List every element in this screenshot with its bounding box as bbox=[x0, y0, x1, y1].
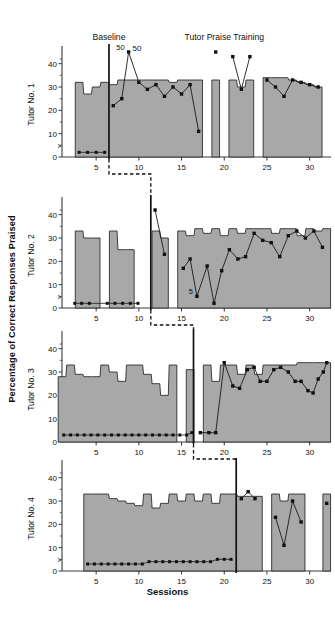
panel-3: 01020304051015202530Tutor No. 3 bbox=[26, 329, 331, 457]
data-point bbox=[252, 232, 255, 235]
bar-region bbox=[263, 78, 322, 157]
data-point bbox=[258, 380, 261, 383]
panel-label-2: Tutor No. 2 bbox=[26, 234, 36, 277]
baseline-data-point bbox=[106, 302, 109, 305]
data-point bbox=[207, 431, 210, 434]
data-point bbox=[279, 366, 282, 369]
data-point bbox=[287, 370, 290, 373]
baseline-data-point bbox=[113, 302, 116, 305]
baseline-data-point bbox=[175, 560, 178, 563]
data-point bbox=[265, 78, 268, 81]
point-annotation: 50 bbox=[116, 43, 124, 52]
data-point bbox=[304, 236, 307, 239]
data-point bbox=[325, 502, 328, 505]
y-tick-label: 30 bbox=[48, 234, 57, 243]
baseline-data-point bbox=[230, 558, 233, 561]
data-point bbox=[306, 389, 309, 392]
data-point bbox=[205, 264, 208, 267]
data-point bbox=[308, 83, 311, 86]
data-point bbox=[146, 88, 149, 91]
data-point bbox=[231, 384, 234, 387]
y-tick-label: 30 bbox=[48, 83, 57, 92]
data-point bbox=[321, 246, 324, 249]
data-point bbox=[265, 380, 268, 383]
phase-connector bbox=[194, 444, 237, 459]
baseline-data-point bbox=[83, 434, 86, 437]
baseline-data-point bbox=[107, 563, 110, 566]
y-tick-label: 10 bbox=[48, 281, 57, 290]
y-tick-label: 10 bbox=[48, 130, 57, 139]
data-point bbox=[312, 229, 315, 232]
baseline-data-point bbox=[113, 563, 116, 566]
data-point bbox=[299, 520, 302, 523]
data-point bbox=[299, 81, 302, 84]
x-tick-label: 25 bbox=[262, 448, 271, 457]
phase-connector bbox=[151, 310, 194, 329]
data-point bbox=[291, 78, 294, 81]
data-point bbox=[253, 497, 256, 500]
panel-2: 010203040510152025305Tutor No. 2 bbox=[26, 195, 331, 323]
data-point bbox=[274, 85, 277, 88]
data-point bbox=[214, 431, 217, 434]
baseline-data-point bbox=[189, 560, 192, 563]
bar-region bbox=[58, 365, 177, 442]
y-tick-label: 20 bbox=[48, 257, 57, 266]
baseline-data-point bbox=[202, 560, 205, 563]
data-point bbox=[212, 302, 215, 305]
baseline-data-point bbox=[216, 558, 219, 561]
baseline-data-point bbox=[137, 434, 140, 437]
x-tick-label: 30 bbox=[305, 448, 314, 457]
data-point bbox=[291, 499, 294, 502]
y-tick-label: 20 bbox=[48, 106, 57, 115]
baseline-data-point bbox=[117, 434, 120, 437]
y-tick-label: 10 bbox=[48, 415, 57, 424]
baseline-data-point bbox=[124, 434, 127, 437]
data-point bbox=[287, 234, 290, 237]
baseline-data-point bbox=[144, 434, 147, 437]
x-tick-label: 5 bbox=[94, 448, 99, 457]
data-point bbox=[246, 368, 249, 371]
baseline-data-point bbox=[96, 434, 99, 437]
baseline-data-point bbox=[90, 434, 93, 437]
baseline-data-point bbox=[73, 302, 76, 305]
data-point bbox=[127, 50, 130, 53]
bar-region bbox=[75, 231, 100, 308]
baseline-data-point bbox=[100, 563, 103, 566]
baseline-data-point bbox=[93, 563, 96, 566]
x-tick-label: 15 bbox=[177, 448, 186, 457]
baseline-data-point bbox=[86, 151, 89, 154]
baseline-data-point bbox=[223, 558, 226, 561]
x-tick-label: 5 bbox=[94, 163, 99, 172]
baseline-data-point bbox=[148, 560, 151, 563]
data-point bbox=[240, 88, 243, 91]
baseline-data-point bbox=[121, 302, 124, 305]
data-point bbox=[295, 229, 298, 232]
data-point bbox=[316, 377, 319, 380]
y-tick-label: 40 bbox=[48, 211, 57, 220]
data-point bbox=[293, 380, 296, 383]
data-point bbox=[223, 361, 226, 364]
data-point bbox=[316, 85, 319, 88]
data-point bbox=[182, 267, 185, 270]
x-tick-label: 20 bbox=[220, 163, 229, 172]
data-point bbox=[270, 241, 273, 244]
x-tick-label: 25 bbox=[262, 314, 271, 323]
data-point bbox=[325, 361, 328, 364]
baseline-data-point bbox=[161, 560, 164, 563]
bar-region bbox=[323, 494, 331, 571]
x-tick-label: 30 bbox=[305, 577, 314, 586]
x-tick-label: 5 bbox=[94, 314, 99, 323]
data-point bbox=[188, 83, 191, 86]
data-point bbox=[163, 95, 166, 98]
baseline-data-point bbox=[165, 434, 168, 437]
x-tick-label: 10 bbox=[134, 163, 143, 172]
baseline-data-point bbox=[127, 563, 130, 566]
data-point bbox=[171, 85, 174, 88]
baseline-data-point bbox=[80, 302, 83, 305]
baseline-data-point bbox=[62, 434, 65, 437]
baseline-data-point bbox=[103, 151, 106, 154]
data-point bbox=[188, 257, 191, 260]
data-point bbox=[322, 370, 325, 373]
x-tick-label: 15 bbox=[177, 314, 186, 323]
baseline-data-point bbox=[172, 434, 175, 437]
